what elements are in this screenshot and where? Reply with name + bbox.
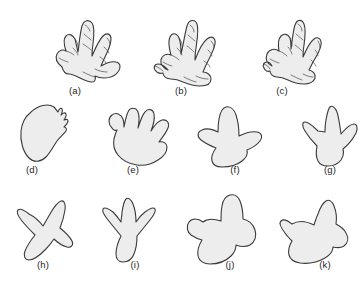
panel-label-c: (c): [276, 85, 288, 96]
panel-label-h: (h): [37, 259, 49, 270]
panel-label-b: (b): [175, 85, 187, 96]
footprint-figure-plate: (a)(b)(c)(d)(e)(f)(g)(h)(i)(j)(k): [0, 0, 363, 291]
panel-label-a: (a): [69, 85, 81, 96]
panel-label-i: (i): [130, 259, 139, 270]
panel-label-f: (f): [230, 164, 240, 175]
panel-label-e: (e): [127, 164, 139, 175]
panel-label-k: (k): [319, 259, 331, 270]
panel-label-d: (d): [26, 164, 38, 175]
panel-label-g: (g): [324, 164, 336, 175]
panel-label-j: (j): [225, 259, 234, 270]
footprint-figure-canvas: (a)(b)(c)(d)(e)(f)(g)(h)(i)(j)(k): [0, 0, 363, 291]
